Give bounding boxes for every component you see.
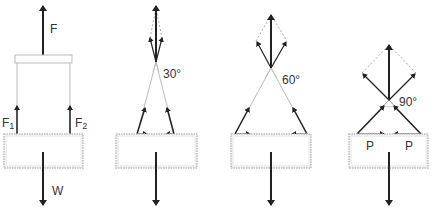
left-tension-arrow <box>357 106 384 134</box>
force-diagram: F F1 F2 W 30° 60° <box>0 0 433 212</box>
angle-label: 30° <box>163 67 181 81</box>
panel-1-parallel-strings: F F1 F2 W <box>2 6 87 205</box>
label-F2: F2 <box>75 116 87 131</box>
panel-2-30-degrees: 30° <box>116 6 197 205</box>
label-P-left: P <box>366 139 374 153</box>
angle-arc <box>384 105 394 107</box>
left-component-arrow <box>363 74 389 100</box>
angle-label: 90° <box>399 95 417 109</box>
right-tension-arrow <box>167 108 174 134</box>
left-component-arrow <box>257 42 271 68</box>
label-P-right: P <box>405 139 413 153</box>
right-tension-arrow <box>394 106 421 134</box>
panel-4-90-degrees: 90° P P <box>349 45 428 205</box>
left-tension-arrow <box>137 108 145 134</box>
hanger-bar <box>15 55 72 63</box>
left-tension-arrow <box>235 108 249 134</box>
panel-3-60-degrees: 60° <box>231 15 311 205</box>
label-F: F <box>50 22 57 36</box>
right-component-arrow <box>271 42 286 68</box>
right-tension-arrow <box>293 108 307 134</box>
angle-label: 60° <box>282 73 300 87</box>
label-W: W <box>52 184 64 198</box>
label-F1: F1 <box>2 116 14 131</box>
